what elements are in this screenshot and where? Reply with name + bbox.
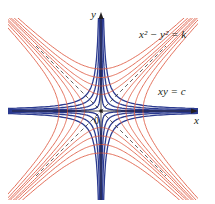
x-axis-label: x bbox=[193, 114, 199, 126]
diagram-canvas: y x 0 x² − y² = k xy = c bbox=[0, 0, 215, 204]
origin-label: 0 bbox=[94, 115, 99, 126]
y-axis-arrow-icon bbox=[99, 12, 104, 19]
xy-equals-c-curve bbox=[0, 0, 99, 109]
origin-point bbox=[99, 109, 103, 113]
orthogonal-hyperbola-families-diagram: y x 0 x² − y² = k xy = c bbox=[0, 0, 215, 204]
xy-equals-c-curve bbox=[0, 0, 101, 111]
xy-equals-c-curve bbox=[0, 0, 100, 110]
x2-minus-y2-equals-k-curve bbox=[0, 0, 59, 204]
x2-minus-y2-equals-k-curve bbox=[0, 0, 84, 204]
blue-family-equation-label: xy = c bbox=[157, 85, 186, 97]
x2-minus-y2-equals-k-curve bbox=[0, 0, 76, 204]
red-family-equation-label: x² − y² = k bbox=[138, 28, 187, 40]
y-axis-label: y bbox=[90, 8, 96, 20]
xy-equals-c-curve bbox=[0, 0, 101, 111]
